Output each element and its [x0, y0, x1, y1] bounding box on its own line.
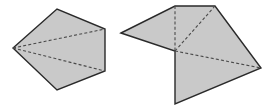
- pentagon-figure: [13, 9, 105, 90]
- unfolded-figure: [121, 6, 261, 104]
- diagram-canvas: [0, 0, 276, 106]
- pentagon-face: [13, 9, 105, 90]
- unfolded-face: [121, 6, 261, 104]
